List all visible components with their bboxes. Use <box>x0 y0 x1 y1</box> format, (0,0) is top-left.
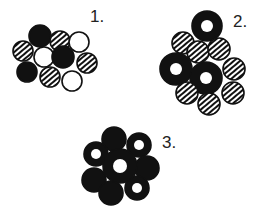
ring-circle <box>103 149 137 183</box>
cluster-3 <box>82 127 159 205</box>
hatched-circle <box>223 58 245 80</box>
label-1: 1. <box>90 7 104 26</box>
open-circle <box>69 32 89 52</box>
solid-circle <box>17 62 37 82</box>
hatched-circle <box>176 82 198 104</box>
hatched-circle <box>208 38 230 60</box>
label-3: 3. <box>162 133 176 152</box>
ring-circle <box>192 11 222 41</box>
hatched-circle <box>198 93 220 115</box>
solid-circle <box>99 181 123 205</box>
hatched-circle <box>187 41 209 63</box>
packing-diagram: 1. 2. 3. <box>0 0 265 215</box>
solid-circle <box>29 25 51 47</box>
solid-circle <box>52 46 74 68</box>
hatched-circle <box>222 82 244 104</box>
hatched-circle <box>40 67 60 87</box>
ring-circle <box>160 53 192 85</box>
hatched-circle <box>13 41 33 61</box>
open-circle <box>62 71 82 91</box>
label-2: 2. <box>233 12 247 31</box>
open-circle <box>34 47 54 67</box>
hatched-circle <box>77 53 97 73</box>
cluster-1 <box>13 25 97 91</box>
